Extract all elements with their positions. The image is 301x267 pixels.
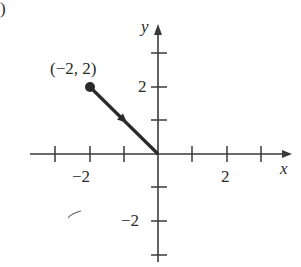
vector-start-point (85, 82, 95, 92)
part-label: ) (0, 0, 6, 17)
y-tick-label-neg2: −2 (121, 212, 139, 229)
x-axis-label: x (280, 160, 288, 177)
y-tick-label-2: 2 (138, 78, 147, 95)
x-tick-label-2: 2 (221, 168, 230, 185)
x-axis-arrow-icon (282, 150, 292, 158)
y-axis-arrow-icon (154, 24, 162, 35)
y-axis-label: y (141, 18, 149, 35)
stray-pencil-mark (68, 211, 81, 218)
coordinate-plane (0, 0, 301, 267)
x-tick-label-neg2: −2 (72, 168, 90, 185)
point-label: (−2, 2) (50, 60, 96, 77)
